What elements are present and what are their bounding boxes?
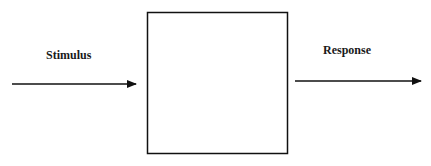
stimulus-label: Stimulus xyxy=(46,48,91,63)
response-label: Response xyxy=(323,43,371,58)
system-box xyxy=(148,13,288,154)
diagram-canvas: Stimulus Response xyxy=(0,0,431,166)
diagram-svg xyxy=(0,0,431,166)
